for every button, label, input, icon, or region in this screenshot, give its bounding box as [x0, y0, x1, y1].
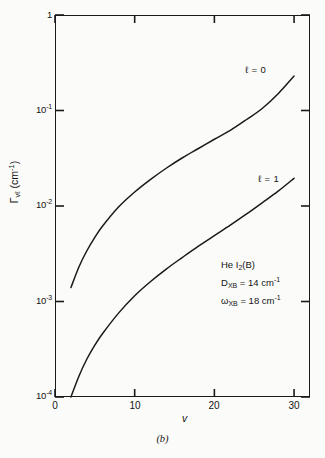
y-axis-units-exponent: -1: [7, 164, 16, 171]
annotation-text: He I: [221, 259, 238, 270]
figure-caption: (b): [0, 433, 325, 444]
y-tick-mantissa: 10: [36, 199, 46, 210]
x-tick-label-20: 20: [208, 401, 219, 411]
y-tick-mantissa: 1: [47, 9, 52, 20]
x-tick-label-0: 0: [52, 401, 58, 411]
x-tick-label-10: 10: [129, 401, 140, 411]
y-tick-label-1e-2: 10-2: [36, 200, 52, 210]
annotation-text: = 18 cm: [238, 295, 275, 306]
y-axis-title-subscript: vℓ: [13, 191, 22, 197]
annotation-subscript: XB: [228, 300, 237, 307]
y-tick-label-1e-3: 10-3: [36, 296, 52, 306]
annotation-text: (B): [242, 259, 255, 270]
y-tick-label-1e-1: 10-1: [36, 105, 52, 115]
annotation-frequency: ωXB = 18 cm-1: [221, 292, 281, 310]
x-tick-label-30: 30: [288, 401, 299, 411]
plot-frame: [55, 15, 310, 397]
annotation-well-depth: DXB = 14 cm-1: [221, 274, 281, 292]
y-tick-mantissa: 10: [36, 295, 46, 306]
curve-label-l0: ℓ = 0: [245, 64, 266, 75]
y-tick-mantissa: 10: [36, 104, 46, 115]
y-axis-title-symbol: Γ: [8, 198, 20, 204]
y-axis-units-open: (cm: [8, 171, 20, 189]
y-tick-exponent: -4: [46, 389, 52, 396]
annotation-subscript: XB: [228, 282, 237, 289]
annotation-text: D: [221, 277, 228, 288]
y-tick-label-1e-4: 10-4: [36, 391, 52, 401]
x-axis-title: v: [182, 412, 187, 424]
annotation-block: He I2(B) DXB = 14 cm-1 ωXB = 18 cm-1: [221, 256, 281, 310]
y-tick-exponent: -3: [46, 294, 52, 301]
annotation-system: He I2(B): [221, 256, 281, 274]
y-tick-mantissa: 10: [36, 390, 46, 401]
y-tick-label-1: 1: [47, 10, 52, 20]
y-tick-exponent: -1: [46, 103, 52, 110]
annotation-text: = 14 cm: [237, 277, 274, 288]
annotation-superscript: -1: [274, 294, 280, 301]
figure-root: 1 10-1 10-2 10-3 10-4 Γvℓ (cm-1) 0 10 20…: [0, 0, 325, 458]
annotation-superscript: -1: [274, 276, 280, 283]
annotation-subscript: 2: [238, 264, 242, 271]
y-axis-title: Γvℓ (cm-1): [8, 134, 20, 230]
y-tick-exponent: -2: [46, 198, 52, 205]
y-axis-units-close: ): [8, 161, 20, 165]
curve-label-l1: ℓ = 1: [258, 173, 279, 184]
